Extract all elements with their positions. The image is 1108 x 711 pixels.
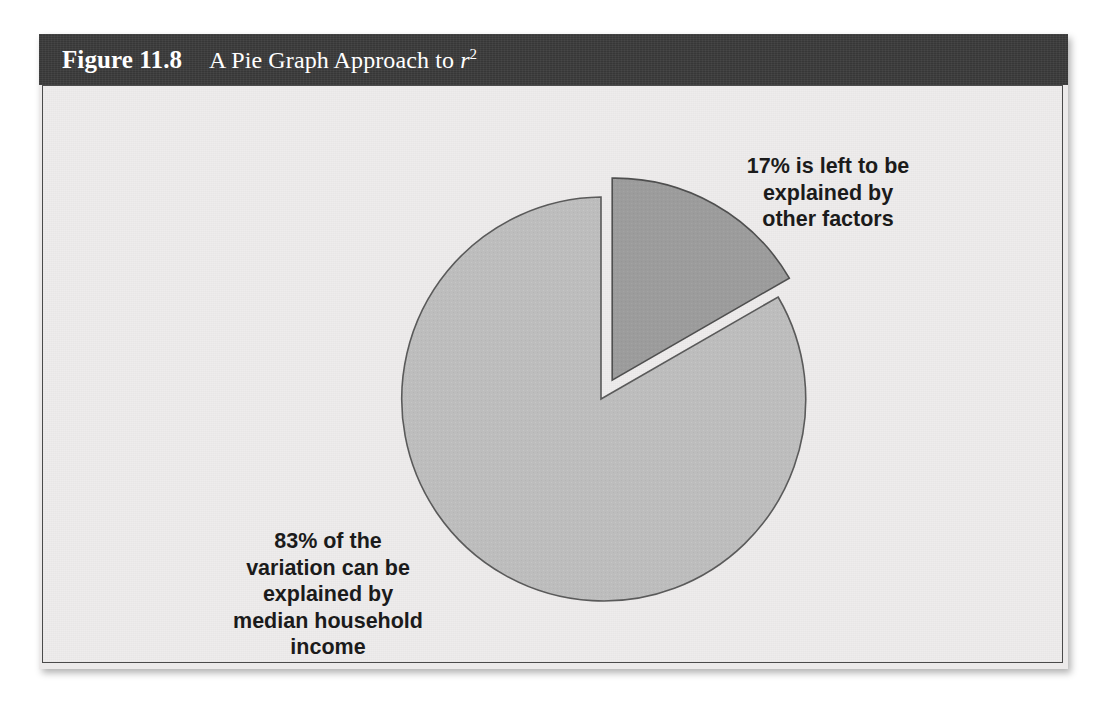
callout-minor-slice: 17% is left to be explained by other fac…	[703, 153, 953, 233]
figure-number: Figure 11.8	[62, 46, 182, 74]
figure-caption-symbol: r	[460, 47, 469, 73]
figure-card: Figure 11.8 A Pie Graph Approach to r2	[39, 34, 1068, 669]
figure-caption-superscript: 2	[470, 46, 478, 62]
figure-header-bar: Figure 11.8 A Pie Graph Approach to r2	[39, 34, 1068, 85]
figure-caption-text: A Pie Graph Approach to	[209, 47, 460, 73]
callout-major-slice: 83% of the variation can be explained by…	[183, 528, 473, 661]
plot-panel: 17% is left to be explained by other fac…	[42, 85, 1063, 663]
figure-caption: A Pie Graph Approach to r2	[209, 46, 477, 74]
